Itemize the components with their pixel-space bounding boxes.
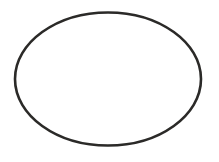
ellipse-diagram: [0, 0, 219, 162]
figure-canvas: [0, 0, 219, 162]
canvas-background: [0, 0, 219, 162]
